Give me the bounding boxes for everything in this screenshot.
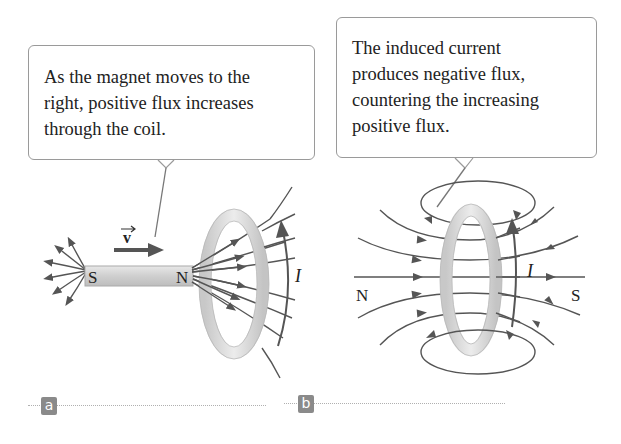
- north-label-b: N: [356, 286, 368, 305]
- callout-b-line-4: positive flux.: [352, 113, 596, 139]
- panel-a-diagram: S N v: [48, 160, 302, 378]
- callout-b-leader-line: [437, 168, 465, 207]
- south-label-b: S: [571, 286, 580, 305]
- panel-b-badge: b: [298, 395, 314, 413]
- loop-bottom-arrow-left: [426, 330, 436, 338]
- magnet-north-label: N: [176, 268, 188, 287]
- current-label-a: I: [294, 266, 302, 286]
- coil-b-outline-inner: [452, 216, 490, 344]
- callout-a-pointer: [158, 160, 174, 168]
- callout-a: As the magnet moves to the right, positi…: [28, 45, 315, 160]
- panel-a-badge: a: [41, 397, 57, 415]
- panel-a-divider: [28, 405, 266, 406]
- callout-a-line-1: As the magnet moves to the: [44, 64, 314, 90]
- callout-a-line-2: right, positive flux increases: [44, 90, 314, 116]
- coil-b: [446, 210, 496, 350]
- loop-bottom-arrow-right: [506, 330, 514, 340]
- current-arc-b: [512, 222, 516, 327]
- callout-b-line-2: produces negative flux,: [352, 61, 596, 87]
- callout-a-line-3: through the coil.: [44, 116, 314, 142]
- magnet-south-label: S: [88, 268, 97, 287]
- callout-a-leader-line: [155, 168, 166, 237]
- current-label-b: I: [526, 261, 534, 281]
- field-lines-south: [48, 241, 86, 302]
- callout-b-line-1: The induced current: [352, 35, 596, 61]
- panel-b-diagram: I N S: [354, 158, 585, 374]
- callout-b-pointer: [455, 158, 473, 168]
- callout-b-line-3: countering the increasing: [352, 87, 596, 113]
- velocity-arrowhead: [148, 243, 164, 257]
- panel-b-divider: [284, 403, 505, 404]
- loop-top-arrow-left: [424, 216, 432, 224]
- figure-root: S N v: [0, 0, 621, 444]
- velocity-label: v: [123, 229, 131, 246]
- current-arrowhead-b: [506, 218, 519, 234]
- callout-b: The induced current produces negative fl…: [336, 17, 597, 158]
